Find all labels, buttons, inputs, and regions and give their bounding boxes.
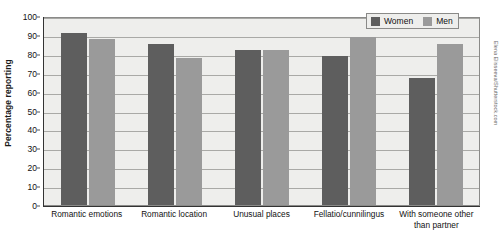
bar-group — [218, 18, 305, 205]
y-axis-tick-50: 50 — [28, 107, 37, 117]
legend-entry-women[interactable]: Women — [371, 16, 413, 26]
y-axis-tick-30: 30 — [28, 144, 37, 154]
bar-men[interactable] — [350, 37, 376, 205]
plot-area — [43, 17, 480, 206]
women-swatch-icon — [371, 17, 380, 26]
y-axis-tick-100: 100 — [23, 12, 37, 22]
x-axis-tick-label: Fellatio/cunnilingus — [305, 209, 392, 230]
bar-women[interactable] — [235, 50, 261, 205]
y-axis-tick-60: 60 — [28, 88, 37, 98]
chart-legend: WomenMen — [366, 13, 459, 29]
y-axis-tick-80: 80 — [28, 50, 37, 60]
y-axis-tick-10: 10 — [28, 182, 37, 192]
x-axis-line — [43, 206, 480, 207]
legend-entry-men[interactable]: Men — [423, 16, 453, 26]
bar-men[interactable] — [176, 58, 202, 205]
legend-label: Women — [384, 16, 413, 26]
bar-groups — [44, 18, 479, 205]
image-credit-text: Elena Elisseeva/Shutterstock.com — [493, 41, 499, 126]
y-axis-tick-20: 20 — [28, 163, 37, 173]
y-axis-tick-mark — [37, 35, 40, 36]
x-axis-tick-labels: Romantic emotionsRomantic locationUnusua… — [43, 209, 480, 230]
y-axis-line — [43, 17, 44, 207]
y-axis-tick-mark — [37, 111, 40, 112]
y-axis-tick-mark — [37, 206, 40, 207]
y-axis-label: Percentage reporting — [0, 0, 16, 206]
bar-group — [131, 18, 218, 205]
bar-men[interactable] — [89, 39, 115, 205]
x-axis-tick-label: Romantic emotions — [43, 209, 130, 230]
x-axis-tick-label: With someone other than partner — [393, 209, 480, 230]
y-axis-label-text: Percentage reporting — [3, 59, 13, 147]
bar-group — [392, 18, 479, 205]
image-credit: Elena Elisseeva/Shutterstock.com — [490, 80, 502, 240]
bar-men[interactable] — [437, 44, 463, 205]
y-axis-tick-90: 90 — [28, 31, 37, 41]
bar-women[interactable] — [409, 78, 435, 205]
y-axis-tick-70: 70 — [28, 69, 37, 79]
bar-women[interactable] — [148, 44, 174, 205]
x-axis-tick-label: Romantic location — [130, 209, 217, 230]
bar-chart-figure: Percentage reporting 1009080706050403020… — [0, 0, 502, 247]
y-axis-tick-mark — [37, 168, 40, 169]
y-axis-tick-mark — [37, 149, 40, 150]
bar-women[interactable] — [61, 33, 87, 205]
legend-label: Men — [436, 16, 453, 26]
y-axis-tick-labels: 1009080706050403020100 — [16, 10, 40, 210]
y-axis-tick-40: 40 — [28, 125, 37, 135]
bar-women[interactable] — [322, 56, 348, 205]
y-axis-tick-mark — [37, 73, 40, 74]
y-axis-tick-mark — [37, 54, 40, 55]
x-axis-tick-label: Unusual places — [218, 209, 305, 230]
y-axis-tick-mark — [37, 92, 40, 93]
men-swatch-icon — [423, 17, 432, 26]
y-axis-tick-mark — [37, 187, 40, 188]
y-axis-tick-mark — [37, 17, 40, 18]
bar-men[interactable] — [263, 50, 289, 205]
bar-group — [44, 18, 131, 205]
y-axis-tick-mark — [37, 130, 40, 131]
bar-group — [305, 18, 392, 205]
